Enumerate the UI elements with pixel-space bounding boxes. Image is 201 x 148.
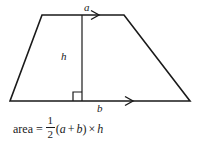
fraction-denominator: 2 [47, 128, 55, 140]
trapezoid-outline [10, 15, 190, 101]
label-side-b: b [97, 103, 103, 114]
area-formula: area = 1 2 ( a + b ) × h [13, 116, 103, 141]
label-side-a: a [84, 2, 90, 13]
formula-area-word: area [13, 123, 33, 135]
trapezoid-area-figure: a h b area = 1 2 ( a + b ) × h [0, 0, 201, 148]
label-height-h: h [61, 51, 67, 62]
formula-variable-h: h [97, 123, 103, 135]
formula-equals-sign: = [36, 123, 43, 135]
formula-plus-sign: + [68, 123, 75, 135]
formula-fraction-one-half: 1 2 [46, 115, 55, 140]
formula-variable-a: a [60, 123, 66, 135]
fraction-numerator: 1 [47, 115, 55, 127]
formula-times-sign: × [89, 123, 96, 135]
formula-close-paren: ) [83, 123, 87, 135]
right-angle-marker-icon [73, 92, 82, 101]
